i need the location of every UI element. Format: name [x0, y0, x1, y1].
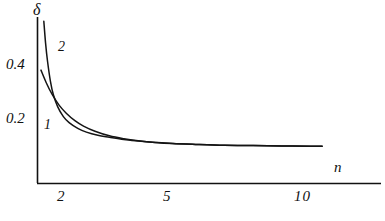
y-tick-label-0-4: 0.4 — [6, 57, 25, 72]
curve-1-path — [41, 70, 322, 146]
y-tick-label-0-2: 0.2 — [6, 111, 25, 126]
curve-label-2: 2 — [58, 40, 65, 54]
curve-label-1: 1 — [44, 118, 51, 132]
y-axis-title: δ — [33, 2, 40, 18]
x-tick-label-2: 2 — [57, 189, 66, 204]
x-tick-label-10: 10 — [294, 189, 311, 204]
x-axis-title: n — [334, 160, 342, 175]
x-tick-label-5: 5 — [163, 189, 172, 204]
figure-container: 0.4 0.2 2 5 10 δ n 2 1 — [0, 0, 385, 221]
axes-lines — [37, 17, 381, 184]
data-curves — [41, 21, 322, 146]
